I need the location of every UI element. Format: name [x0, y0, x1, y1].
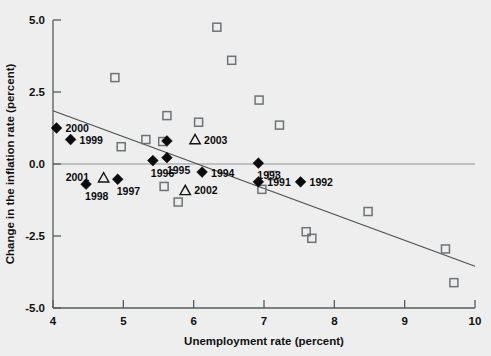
data-point-label: 1995	[167, 164, 191, 176]
y-tick-label: 2.5	[29, 86, 46, 98]
data-point-filled-diamond	[197, 167, 208, 178]
x-tick-label: 5	[120, 315, 127, 327]
data-point-open-square	[174, 198, 182, 206]
y-tick-label: 0.0	[29, 158, 45, 170]
data-point-open-square	[441, 245, 449, 253]
point-labels-group: 2000199919981997199619951994199319911992…	[66, 122, 334, 202]
data-point-filled-diamond	[253, 158, 264, 169]
x-tick-label: 8	[331, 315, 338, 327]
y-tick-label: -2.5	[25, 230, 45, 242]
scatter-chart: 45678910 5.02.50.0-2.5-5.0 2000199919981…	[0, 0, 491, 356]
data-point-filled-diamond	[295, 176, 306, 187]
data-point-open-square	[255, 96, 263, 104]
data-point-label: 1992	[310, 176, 334, 188]
data-point-open-square	[160, 182, 168, 190]
data-point-label: 1991	[267, 176, 291, 188]
data-point-open-square	[450, 279, 458, 287]
y-axis-title: Change in the inflation rate (percent)	[4, 64, 16, 265]
data-point-filled-diamond	[112, 174, 123, 185]
data-point-label: 1994	[211, 167, 235, 179]
y-tick-label: -5.0	[25, 302, 45, 314]
data-point-label: 1997	[117, 185, 141, 197]
data-point-open-square	[364, 208, 372, 216]
data-point-label: 2000	[66, 122, 90, 134]
x-tick-label: 10	[469, 315, 482, 327]
data-point-open-square	[228, 56, 236, 64]
data-point-label: 1999	[80, 134, 104, 146]
data-point-open-square	[163, 112, 171, 120]
data-point-open-triangle	[180, 185, 190, 194]
data-point-filled-diamond	[65, 134, 76, 145]
data-point-open-triangle	[98, 173, 108, 182]
data-point-label: 1998	[85, 190, 109, 202]
x-tick-label: 7	[261, 315, 267, 327]
data-point-label: 2001	[66, 171, 90, 183]
data-point-open-square	[117, 143, 125, 151]
y-axis-ticks-group: 5.02.50.0-2.5-5.0	[25, 14, 61, 314]
x-axis-ticks-group: 45678910	[50, 300, 482, 327]
x-axis-title: Unemployment rate (percent)	[184, 335, 344, 347]
data-point-label: 2003	[204, 134, 228, 146]
x-tick-label: 6	[190, 315, 196, 327]
data-point-open-square	[275, 121, 283, 129]
x-tick-label: 4	[50, 315, 57, 327]
data-point-open-square	[111, 74, 119, 82]
open-square-markers-group	[111, 23, 458, 286]
y-tick-label: 5.0	[29, 14, 45, 26]
data-point-open-square	[142, 136, 150, 144]
data-point-open-square	[195, 118, 203, 126]
data-point-open-square	[213, 23, 221, 31]
data-point-open-triangle	[190, 134, 200, 143]
data-point-label: 2002	[194, 184, 218, 196]
x-tick-label: 9	[401, 315, 407, 327]
chart-canvas: 45678910 5.02.50.0-2.5-5.0 2000199919981…	[0, 0, 491, 356]
